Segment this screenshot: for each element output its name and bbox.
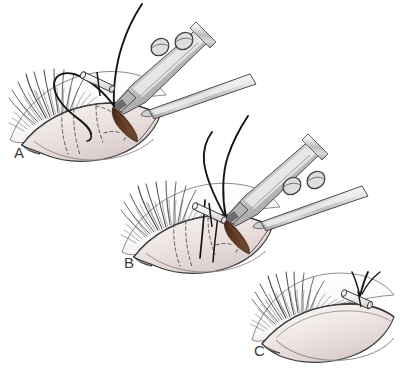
panel-c: C — [250, 272, 394, 362]
panel-b: B — [121, 116, 368, 273]
panel-b-label: B — [124, 254, 134, 271]
panel-a: A — [9, 4, 256, 161]
panel-c-label: C — [254, 342, 265, 359]
panel-a-label: A — [14, 144, 24, 161]
surgical-figure: A — [0, 0, 400, 370]
figure-canvas: A — [0, 0, 400, 370]
